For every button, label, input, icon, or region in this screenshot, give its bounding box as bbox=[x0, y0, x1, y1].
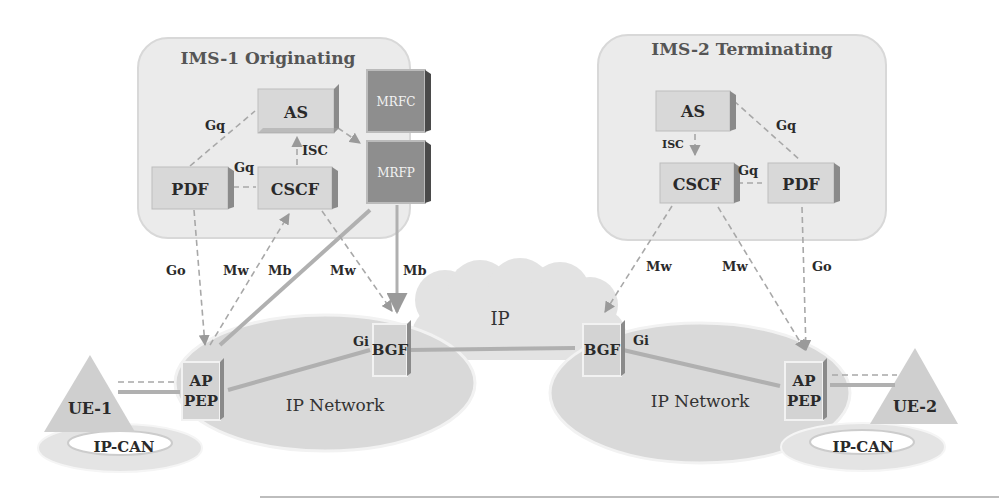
mrfp-label: MRFP bbox=[377, 166, 415, 180]
gq-label-1b: Gq bbox=[234, 160, 254, 175]
ap-pep-1-label-line2: PEP bbox=[184, 392, 218, 410]
pdf-1-label: PDF bbox=[171, 180, 209, 199]
ip-cloud-label: IP bbox=[490, 308, 509, 329]
mw-label-2a: Mw bbox=[646, 259, 672, 274]
ip-network-left-label: IP Network bbox=[286, 395, 385, 415]
mb-label-1a: Mb bbox=[268, 263, 291, 278]
pdf-2-label: PDF bbox=[782, 175, 820, 194]
cscf-2-label: CSCF bbox=[673, 175, 722, 194]
go-label-2: Go bbox=[812, 259, 832, 274]
ap-pep-1-label-line1: AP bbox=[189, 372, 213, 390]
gi-label-1: Gi bbox=[353, 334, 369, 349]
ap-pep-node-2[interactable]: AP PEP bbox=[785, 358, 827, 420]
mrfc-node[interactable]: MRFC bbox=[367, 70, 431, 132]
bgf-node-2[interactable]: BGF bbox=[583, 320, 625, 376]
gq-label-2b: Gq bbox=[738, 163, 758, 178]
gq-label-1a: Gq bbox=[205, 118, 225, 133]
ap-pep-2-label-line1: AP bbox=[792, 372, 816, 390]
as-1-label: AS bbox=[283, 103, 308, 122]
as-node-1[interactable]: AS bbox=[258, 84, 339, 133]
as-2-label: AS bbox=[680, 102, 705, 121]
cscf-node-2[interactable]: CSCF bbox=[660, 163, 740, 203]
cscf-1-label: CSCF bbox=[271, 180, 320, 199]
pdf-node-1[interactable]: PDF bbox=[152, 167, 234, 209]
gi-label-2: Gi bbox=[633, 333, 649, 348]
ims-2-title: IMS-2 Terminating bbox=[651, 39, 832, 59]
mb-label-1b: Mb bbox=[403, 263, 426, 278]
gq-label-2a: Gq bbox=[776, 118, 796, 133]
ip-can-left-label: IP-CAN bbox=[94, 438, 155, 456]
bgf-2-label: BGF bbox=[584, 341, 621, 359]
ue-2-label: UE-2 bbox=[893, 397, 937, 416]
ip-network-right-label: IP Network bbox=[651, 391, 750, 411]
ip-can-right-label: IP-CAN bbox=[833, 438, 894, 456]
cscf-node-1[interactable]: CSCF bbox=[258, 167, 338, 209]
bgf-node-1[interactable]: BGF bbox=[372, 320, 411, 376]
ue-1-label: UE-1 bbox=[68, 399, 112, 418]
ap-pep-2-label-line2: PEP bbox=[787, 392, 821, 410]
mw-label-1b: Mw bbox=[330, 263, 356, 278]
ims-2-terminating-domain: IMS-2 Terminating bbox=[598, 35, 886, 240]
ip-can-right: IP-CAN bbox=[781, 423, 945, 471]
as-node-2[interactable]: AS bbox=[656, 91, 736, 131]
go-label-1: Go bbox=[166, 263, 186, 278]
ims-1-title: IMS-1 Originating bbox=[181, 48, 356, 68]
mrfp-node[interactable]: MRFP bbox=[367, 141, 431, 203]
bgf-1-label: BGF bbox=[372, 341, 409, 359]
mrfc-label: MRFC bbox=[377, 95, 416, 109]
ims-architecture-diagram: IMS-1 Originating IMS-2 Terminating IP I… bbox=[0, 0, 999, 501]
isc-label-1: ISC bbox=[302, 143, 328, 158]
ap-pep-node-1[interactable]: AP PEP bbox=[182, 358, 224, 420]
pdf-node-2[interactable]: PDF bbox=[768, 163, 840, 203]
mw-label-1a: Mw bbox=[223, 263, 249, 278]
isc-label-2: ISC bbox=[662, 138, 684, 151]
mw-label-2b: Mw bbox=[722, 259, 748, 274]
